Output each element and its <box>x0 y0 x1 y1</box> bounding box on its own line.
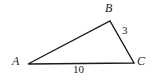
triangle-outline <box>28 21 134 64</box>
triangle-figure: A B C 3 10 <box>0 0 158 80</box>
vertex-label-a: A <box>12 55 19 67</box>
vertex-label-b: B <box>105 2 112 14</box>
vertex-label-c: C <box>137 55 145 67</box>
side-length-label-ac: 10 <box>73 64 84 75</box>
side-length-label-bc: 3 <box>122 25 128 36</box>
